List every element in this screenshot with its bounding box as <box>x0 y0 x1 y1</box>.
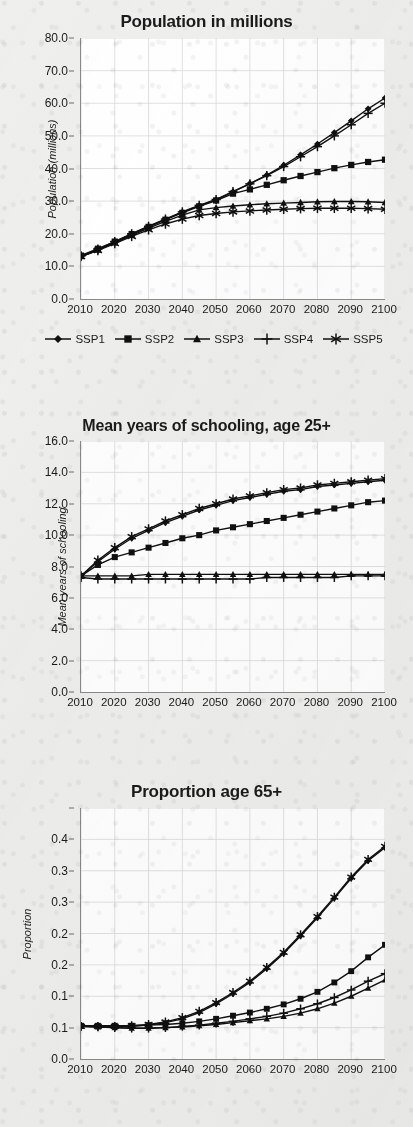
x-tick-label: 2050 <box>202 696 228 708</box>
y-tick-label: 0.4 <box>51 832 68 846</box>
y-tick-label: 0.0 <box>51 1052 68 1066</box>
x-tick-label: 2090 <box>337 696 363 708</box>
y-tick-mark <box>69 38 74 39</box>
x-tick-label: 2010 <box>67 303 93 315</box>
chart-panel-schooling: Mean years of schooling, age 25+ Mean ye… <box>0 405 413 770</box>
x-tick-label: 2090 <box>337 303 363 315</box>
legend-item-ssp1[interactable]: SSP1 <box>44 332 104 346</box>
x-tick-label: 2020 <box>101 696 127 708</box>
x-tick-label: 2030 <box>135 303 161 315</box>
y-tick-mark <box>69 597 74 598</box>
y-tick-mark <box>69 168 74 169</box>
y-tick-mark <box>69 472 74 473</box>
y-tick-label: 0.0 <box>51 292 68 306</box>
legend-item-ssp4[interactable]: SSP4 <box>253 332 313 346</box>
plot-svg-population <box>81 38 385 299</box>
x-tick-label: 2040 <box>169 1063 195 1075</box>
y-tick-mark <box>69 1059 74 1060</box>
y-tick-mark <box>69 135 74 136</box>
y-tick-label: 16.0 <box>45 434 68 448</box>
x-tick-label: 2080 <box>304 303 330 315</box>
legend-item-ssp2[interactable]: SSP2 <box>114 332 174 346</box>
y-tick-mark <box>69 808 74 809</box>
y-tick-label: 12.0 <box>45 497 68 511</box>
x-tick-label: 2050 <box>202 1063 228 1075</box>
legend-label: SSP2 <box>145 333 174 345</box>
legend-item-ssp3[interactable]: SSP3 <box>183 332 243 346</box>
y-axis-ticks-schooling: 0.02.04.06.08.010.012.014.016.0 <box>22 441 74 693</box>
y-tick-mark <box>69 266 74 267</box>
y-tick-mark <box>69 660 74 661</box>
legend-label: SSP4 <box>284 333 313 345</box>
x-tick-label: 2040 <box>169 303 195 315</box>
x-tick-label: 2070 <box>270 1063 296 1075</box>
y-tick-mark <box>69 629 74 630</box>
y-tick-label: 30.0 <box>45 194 68 208</box>
y-tick-label: 14.0 <box>45 465 68 479</box>
y-tick-mark <box>69 299 74 300</box>
plot-svg-schooling <box>81 441 385 692</box>
y-tick-mark <box>69 103 74 104</box>
y-tick-mark <box>69 870 74 871</box>
y-tick-label: 6.0 <box>51 591 68 605</box>
y-tick-label: 0.3 <box>51 895 68 909</box>
chart-title-proportion: Proportion age 65+ <box>0 770 413 802</box>
x-tick-label: 2020 <box>101 1063 127 1075</box>
x-axis-population: 2010202020302040205020602070208020902100 <box>80 300 385 322</box>
asterisk-marker-icon <box>322 332 350 346</box>
y-tick-label: 60.0 <box>45 96 68 110</box>
y-tick-label: 0.1 <box>51 989 68 1003</box>
y-tick-mark <box>69 201 74 202</box>
x-tick-label: 2060 <box>236 696 262 708</box>
plot-area-population <box>80 38 385 300</box>
chart-panel-population: Population in millions Population (milli… <box>0 0 413 405</box>
diamond-marker-icon <box>44 332 72 346</box>
y-axis-ticks-proportion: 0.00.10.10.20.20.30.30.4 <box>22 808 74 1060</box>
triangle-marker-icon <box>183 332 211 346</box>
y-tick-mark <box>69 996 74 997</box>
y-tick-label: 0.3 <box>51 864 68 878</box>
y-tick-label: 0.2 <box>51 958 68 972</box>
x-tick-label: 2080 <box>304 696 330 708</box>
y-tick-mark <box>69 1027 74 1028</box>
chart-title-population: Population in millions <box>0 0 413 32</box>
legend-item-ssp5[interactable]: SSP5 <box>322 332 382 346</box>
chart-title-schooling: Mean years of schooling, age 25+ <box>0 405 413 435</box>
x-tick-label: 2090 <box>337 1063 363 1075</box>
y-tick-mark <box>69 503 74 504</box>
legend-label: SSP5 <box>353 333 382 345</box>
y-tick-mark <box>69 566 74 567</box>
x-tick-label: 2060 <box>236 303 262 315</box>
x-tick-label: 2070 <box>270 696 296 708</box>
x-tick-label: 2040 <box>169 696 195 708</box>
y-tick-label: 0.2 <box>51 927 68 941</box>
x-tick-label: 2020 <box>101 303 127 315</box>
plot-wrap-population: Population (millions) 0.010.020.030.040.… <box>0 38 413 300</box>
x-tick-label: 2100 <box>371 303 397 315</box>
plot-area-proportion <box>80 808 385 1060</box>
y-tick-mark <box>69 233 74 234</box>
x-axis-proportion: 2010202020302040205020602070208020902100 <box>80 1060 385 1082</box>
y-tick-label: 20.0 <box>45 227 68 241</box>
y-axis-ticks-population: 0.010.020.030.040.050.060.070.080.0 <box>22 38 74 300</box>
x-axis-schooling: 2010202020302040205020602070208020902100 <box>80 693 385 715</box>
x-tick-label: 2010 <box>67 696 93 708</box>
x-tick-label: 2080 <box>304 1063 330 1075</box>
y-tick-mark <box>69 70 74 71</box>
y-tick-label: 4.0 <box>51 622 68 636</box>
y-tick-mark <box>69 839 74 840</box>
y-tick-label: 2.0 <box>51 654 68 668</box>
legend-ssp-scenarios: SSP1SSP2SSP3SSP4SSP5 <box>0 332 413 346</box>
chart-panel-proportion: Proportion age 65+ Proportion 0.00.10.10… <box>0 770 413 1127</box>
y-tick-label: 40.0 <box>45 162 68 176</box>
y-tick-mark <box>69 933 74 934</box>
y-tick-mark <box>69 902 74 903</box>
y-tick-label: 10.0 <box>45 528 68 542</box>
square-marker-icon <box>114 332 142 346</box>
y-tick-mark <box>69 535 74 536</box>
plot-wrap-proportion: Proportion 0.00.10.10.20.20.30.30.4 <box>0 808 413 1060</box>
y-tick-label: 8.0 <box>51 560 68 574</box>
y-tick-label: 50.0 <box>45 129 68 143</box>
x-tick-label: 2100 <box>371 1063 397 1075</box>
x-tick-label: 2030 <box>135 696 161 708</box>
